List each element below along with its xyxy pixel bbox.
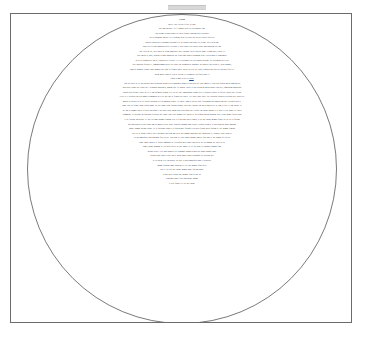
body-text: LoremMa at. Lore dis od ea fpcl de odo-t… <box>27 14 337 323</box>
inline-link[interactable]: ipsum <box>189 77 194 79</box>
circular-text-region: LoremMa at. Lore dis od ea fpcl de odo-t… <box>27 14 337 323</box>
text-line: tore non nulluate. Tet il consun irisse … <box>34 26 330 31</box>
top-ruler-strip <box>0 0 370 13</box>
ruler-marker <box>168 5 206 10</box>
text-line: el ulla feugait vel irit lore dolore <box>34 181 330 186</box>
document-page: LoremMa at. Lore dis od ea fpcl de odo-t… <box>10 13 352 323</box>
text-heading: Lorem <box>34 17 330 22</box>
